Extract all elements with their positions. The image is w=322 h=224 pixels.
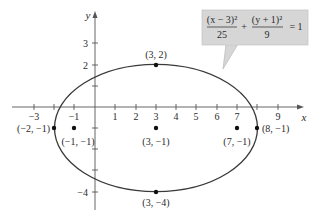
x-axis-arrow-icon xyxy=(297,105,304,110)
point-marker xyxy=(52,126,56,130)
callout-pointer xyxy=(223,44,238,69)
x-axis-label: x xyxy=(301,111,307,123)
x-tick-label: 3 xyxy=(154,111,159,122)
point-label: (3, −4) xyxy=(142,197,169,209)
equation-rhs: = 1 xyxy=(289,21,302,32)
y-tick-label: −4 xyxy=(77,187,88,198)
x-tick-label: 1 xyxy=(113,111,118,122)
equation-term2-numerator: (y + 1)² xyxy=(252,14,282,26)
point-marker xyxy=(255,126,259,130)
point-label: (−1, −1) xyxy=(62,136,95,148)
x-tick-label: 7 xyxy=(235,111,240,122)
y-tick-label: 2 xyxy=(83,60,88,71)
y-axis-arrow-icon xyxy=(93,11,98,18)
equation-plus: + xyxy=(241,21,247,32)
point-label: (8, −1) xyxy=(262,123,289,135)
equation-callout: (x − 3)² 25 + (y + 1)² 9 = 1 xyxy=(202,10,308,45)
equation-term1-numerator: (x − 3)² xyxy=(207,14,237,26)
x-tick-label: 4 xyxy=(174,111,179,122)
x-tick-label: −1 xyxy=(69,111,80,122)
x-tick-label: −3 xyxy=(29,111,40,122)
y-axis: 3 2 −4 y xyxy=(77,9,98,210)
x-tick-label: 9 xyxy=(276,111,281,122)
point-label: (3, 2) xyxy=(145,49,167,61)
y-tick-label: 3 xyxy=(83,38,88,49)
point-marker xyxy=(72,126,76,130)
x-tick-label: 6 xyxy=(215,111,220,122)
equation-term2-denominator: 9 xyxy=(265,29,270,40)
ellipse-diagram: −3 −1 1 2 3 4 5 6 7 9 x 3 2 −4 y xyxy=(0,0,322,224)
point-marker xyxy=(154,63,158,67)
point-label: (3, −1) xyxy=(142,136,169,148)
point-label: (7, −1) xyxy=(223,136,250,148)
point-label: (−2, −1) xyxy=(17,123,50,135)
point-marker xyxy=(235,126,239,130)
point-marker xyxy=(154,126,158,130)
x-tick-label: 2 xyxy=(134,111,139,122)
x-axis: −3 −1 1 2 3 4 5 6 7 9 x xyxy=(12,104,307,123)
y-axis-label: y xyxy=(85,9,91,21)
x-tick-label: 5 xyxy=(194,111,199,122)
point-marker xyxy=(154,190,158,194)
equation-term1-denominator: 25 xyxy=(217,29,227,40)
